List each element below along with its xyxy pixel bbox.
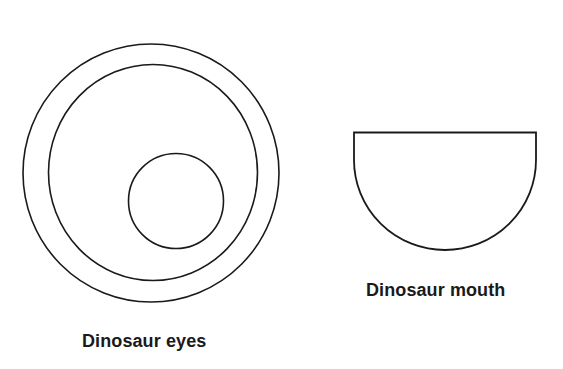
dinosaur-eyes-label: Dinosaur eyes bbox=[82, 330, 206, 352]
dinosaur-mouth-shape[interactable] bbox=[354, 133, 536, 251]
dinosaur-eyes-shape[interactable] bbox=[23, 44, 279, 302]
eye-pupil-outline bbox=[129, 154, 224, 249]
mouth-bowl-outline bbox=[354, 133, 536, 251]
dinosaur-mouth-label: Dinosaur mouth bbox=[366, 279, 505, 301]
worksheet-canvas: Dinosaur eyes Dinosaur mouth bbox=[0, 0, 563, 369]
cutout-shapes-drawing bbox=[0, 0, 563, 369]
